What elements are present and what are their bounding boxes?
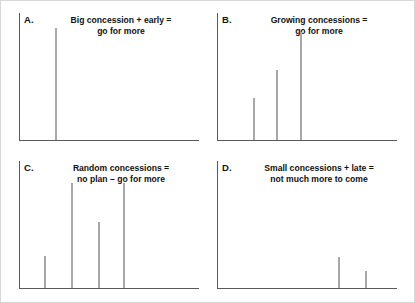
bar — [300, 32, 302, 140]
figure-container: A. Big concession + early = go for more … — [0, 0, 415, 303]
panel-d: D. Small concessions + late = not much m… — [217, 161, 397, 289]
panel-b-plot — [217, 13, 397, 141]
panel-d-plot — [217, 161, 397, 289]
panel-a: A. Big concession + early = go for more — [19, 13, 199, 141]
bar — [98, 222, 100, 288]
bar — [71, 183, 73, 288]
bar — [44, 256, 46, 288]
bar — [276, 70, 278, 140]
panel-c: C. Random concessions = no plan – go for… — [19, 161, 199, 289]
panel-c-plot — [19, 161, 199, 289]
panel-a-plot — [19, 13, 199, 141]
bar — [123, 183, 125, 288]
bar — [55, 28, 57, 139]
bar — [365, 271, 367, 288]
panel-b: B. Growing concessions = go for more — [217, 13, 397, 141]
bar — [338, 257, 340, 287]
bar — [253, 98, 255, 140]
